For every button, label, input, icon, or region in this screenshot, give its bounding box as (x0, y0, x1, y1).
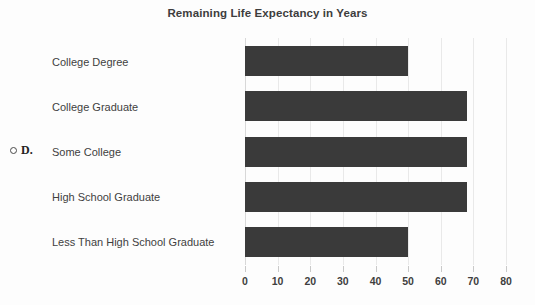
option-letter-label: D. (21, 144, 33, 156)
bar (245, 46, 408, 76)
x-axis-tick-label: 30 (328, 275, 358, 287)
category-label-high-school-graduate: High School Graduate (52, 191, 242, 203)
x-axis-tick-label: 80 (491, 275, 521, 287)
x-axis-tick-label: 70 (458, 275, 488, 287)
x-axis-tick-label: 0 (230, 275, 260, 287)
category-label-college-degree: College Degree (52, 56, 242, 68)
x-axis-tick-label: 10 (263, 275, 293, 287)
gridline (506, 38, 507, 265)
bar (245, 227, 408, 257)
x-axis-tick (506, 266, 507, 272)
x-axis-tick (376, 266, 377, 272)
category-label-some-college: Some College (52, 146, 242, 158)
chart-screenshot: Remaining Life Expectancy in Years D. Co… (0, 0, 535, 305)
x-axis-tick (245, 266, 246, 272)
bar (245, 91, 467, 121)
x-axis-tick-label: 60 (426, 275, 456, 287)
chart-title: Remaining Life Expectancy in Years (0, 7, 535, 19)
radio-unselected-icon[interactable] (10, 147, 17, 154)
x-axis-tick (473, 266, 474, 272)
x-axis-tick (310, 266, 311, 272)
plot-area (245, 38, 506, 265)
x-axis-tick (343, 266, 344, 272)
x-axis-tick (441, 266, 442, 272)
gridline (473, 38, 474, 265)
x-axis-tick (408, 266, 409, 272)
x-axis-tick-label: 20 (295, 275, 325, 287)
category-label-college-graduate: College Graduate (52, 101, 242, 113)
category-label-less-than-high-school-graduate: Less Than High School Graduate (52, 236, 242, 248)
answer-option-d[interactable]: D. (10, 144, 33, 156)
x-axis-tick-label: 40 (361, 275, 391, 287)
x-axis-tick (278, 266, 279, 272)
x-axis-tick-label: 50 (393, 275, 423, 287)
bar (245, 137, 467, 167)
bar (245, 182, 467, 212)
